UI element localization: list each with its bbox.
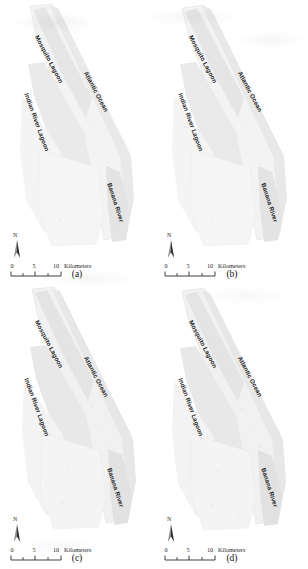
scale-bar-labels: 0 5 10 Kilometers (10, 261, 94, 270)
map-canvas-b: Mosquito Lagoon Atlantic Ocean Indian Ri… (154, 0, 308, 250)
scale-tick-0: 0 (164, 261, 167, 270)
scale-bar-ruler (164, 270, 216, 277)
scale-tick-5: 5 (32, 261, 35, 270)
north-arrow-icon: N (164, 517, 180, 543)
north-arrow-glyph (10, 524, 24, 542)
north-arrow-glyph (10, 240, 24, 258)
scale-bar-ruler (164, 554, 216, 561)
scale-bar-units: Kilometers (218, 545, 246, 554)
north-arrow-label: N (13, 516, 17, 522)
map-geometry-a (0, 0, 154, 250)
scale-bar: 0 5 10 Kilometers (10, 545, 94, 561)
scale-bar-labels: 0 5 10 Kilometers (164, 545, 248, 554)
scale-tick-10: 10 (53, 545, 59, 554)
map-geometry-b (154, 0, 308, 250)
north-arrow-icon: N (164, 233, 180, 259)
map-geometry-d (154, 285, 308, 535)
map-geometry-c (0, 285, 154, 535)
north-arrow-label: N (167, 232, 171, 238)
scale-bar-units: Kilometers (218, 261, 246, 270)
scale-tick-10: 10 (53, 261, 59, 270)
map-panel-b: Mosquito Lagoon Atlantic Ocean Indian Ri… (154, 0, 308, 285)
map-furniture-d: N 0 5 10 Kilometers (164, 517, 248, 561)
map-canvas-a: Mosquito Lagoon Atlantic Ocean Indian Ri… (0, 0, 154, 250)
north-arrow-icon: N (10, 517, 26, 543)
scale-tick-5: 5 (186, 261, 189, 270)
map-canvas-c: Mosquito Lagoon Atlantic Ocean Indian Ri… (0, 285, 154, 535)
scale-tick-5: 5 (32, 545, 35, 554)
scale-bar: 0 5 10 Kilometers (10, 261, 94, 277)
scale-tick-10: 10 (207, 545, 213, 554)
scale-bar-labels: 0 5 10 Kilometers (10, 545, 94, 554)
scale-tick-0: 0 (10, 545, 13, 554)
scale-bar: 0 5 10 Kilometers (164, 261, 248, 277)
scale-bar-labels: 0 5 10 Kilometers (164, 261, 248, 270)
scale-bar-ruler (10, 270, 62, 277)
north-arrow-glyph (164, 240, 178, 258)
scale-bar-ruler (10, 554, 62, 561)
north-arrow-label: N (167, 516, 171, 522)
map-panel-d: Mosquito Lagoon Atlantic Ocean Indian Ri… (154, 285, 308, 569)
map-panel-a: Mosquito Lagoon Atlantic Ocean Indian Ri… (0, 0, 154, 285)
figure-panel-grid: Mosquito Lagoon Atlantic Ocean Indian Ri… (0, 0, 308, 569)
map-canvas-d: Mosquito Lagoon Atlantic Ocean Indian Ri… (154, 285, 308, 535)
map-panel-c: Mosquito Lagoon Atlantic Ocean Indian Ri… (0, 285, 154, 569)
scale-tick-0: 0 (10, 261, 13, 270)
north-arrow-icon: N (10, 233, 26, 259)
map-furniture-a: N 0 5 10 Kilometers (10, 233, 94, 277)
scale-tick-0: 0 (164, 545, 167, 554)
scale-tick-10: 10 (207, 261, 213, 270)
map-furniture-c: N 0 5 10 Kilometers (10, 517, 94, 561)
north-arrow-glyph (164, 524, 178, 542)
scale-tick-5: 5 (186, 545, 189, 554)
map-furniture-b: N 0 5 10 Kilometers (164, 233, 248, 277)
scale-bar-units: Kilometers (64, 261, 92, 270)
scale-bar: 0 5 10 Kilometers (164, 545, 248, 561)
scale-bar-units: Kilometers (64, 545, 92, 554)
north-arrow-label: N (13, 232, 17, 238)
